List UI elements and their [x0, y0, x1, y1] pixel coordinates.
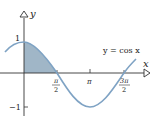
x-tick-label-three-pi-half-den: 2: [122, 86, 126, 94]
y-axis-arrow-icon: [20, 11, 28, 17]
shaded-area: [24, 42, 57, 73]
x-axis-arrow-icon: [144, 69, 150, 77]
y-tick-label-one: 1: [15, 34, 20, 43]
x-tick-label-pi-half-den: 2: [54, 86, 58, 94]
cosine-graph: y x 1 −1 y = cos x π 2 π 3π 2: [0, 0, 153, 120]
function-label: y = cos x: [102, 46, 140, 55]
x-tick-label-three-pi-half-num: 3π: [120, 77, 129, 85]
x-axis-label: x: [143, 58, 149, 69]
y-axis-label: y: [29, 8, 36, 19]
x-tick-label-pi-half-num: π: [53, 77, 59, 85]
x-tick-label-pi: π: [86, 78, 92, 86]
y-tick-label-minus-one: −1: [9, 103, 21, 112]
